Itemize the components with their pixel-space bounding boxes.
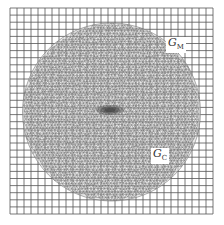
- fine-mesh-label-main: G: [153, 147, 162, 160]
- mesh-diagram: [0, 0, 224, 225]
- coarse-mesh-label: GM: [166, 37, 186, 53]
- coarse-mesh-label-main: G: [168, 36, 177, 49]
- dense-center-region: [96, 105, 124, 115]
- coarse-mesh-label-sub: M: [177, 43, 184, 51]
- fine-mesh-label-sub: C: [162, 154, 167, 162]
- fine-mesh-label: GC: [151, 148, 169, 164]
